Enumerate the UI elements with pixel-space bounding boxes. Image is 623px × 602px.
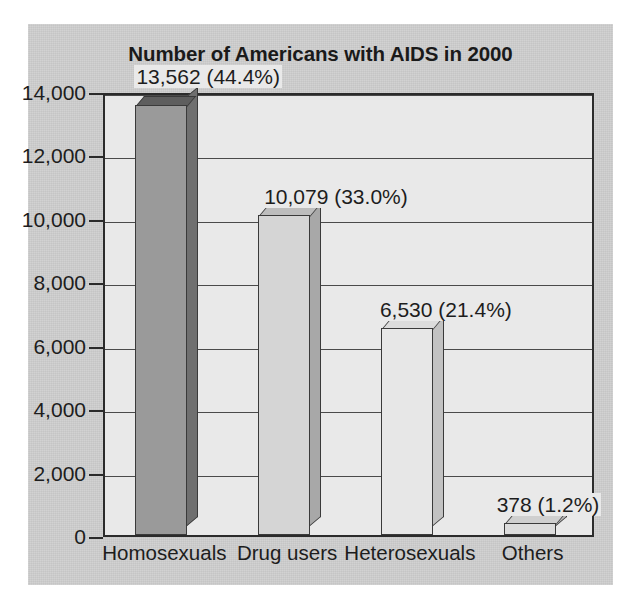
plot-area: 13,562 (44.4%)10,079 (33.0%)6,530 (21.4%… <box>103 93 594 537</box>
y-axis-tick <box>89 537 103 539</box>
y-axis-tick-label: 4,000 <box>33 398 86 422</box>
x-axis-category-labels: HomosexualsDrug usersHeterosexualsOthers <box>103 541 594 575</box>
x-axis-category-label: Heterosexuals <box>344 541 475 565</box>
bar <box>258 215 310 535</box>
bar-side-face <box>187 87 198 526</box>
x-axis-category-label: Homosexuals <box>102 541 226 565</box>
y-axis-tick <box>89 220 103 222</box>
y-axis-tick <box>89 474 103 476</box>
y-axis-tick <box>89 283 103 285</box>
bar-value-label: 10,079 (33.0%) <box>262 185 410 209</box>
y-axis-tick-label: 6,000 <box>33 335 86 359</box>
y-axis-tick-label: 12,000 <box>22 144 86 168</box>
y-axis-tick <box>89 410 103 412</box>
x-axis-category-label: Drug users <box>237 541 337 565</box>
bar-side-face <box>310 197 321 526</box>
bar-front-face <box>135 105 187 535</box>
bar <box>381 328 433 535</box>
bar-value-label: 13,562 (44.4%) <box>134 65 282 89</box>
y-axis-tick <box>89 347 103 349</box>
bar <box>135 105 187 535</box>
y-axis-tick-label: 0 <box>74 525 86 549</box>
bar-value-label: 6,530 (21.4%) <box>378 298 514 322</box>
bar-value-label: 378 (1.2%) <box>495 493 602 517</box>
y-axis-ticks <box>89 24 103 585</box>
y-axis-labels: 02,0004,0006,0008,00010,00012,00014,000 <box>28 24 86 585</box>
bar-front-face <box>381 328 433 535</box>
x-axis-category-label: Others <box>502 541 564 565</box>
bar-front-face <box>504 523 556 535</box>
bar-side-face <box>433 310 444 526</box>
y-axis-tick-label: 2,000 <box>33 462 86 486</box>
chart-title: Number of Americans with AIDS in 2000 <box>28 42 613 66</box>
y-axis-tick <box>89 156 103 158</box>
y-axis-tick-label: 8,000 <box>33 271 86 295</box>
y-axis-tick-label: 14,000 <box>22 81 86 105</box>
y-axis-tick <box>89 93 103 95</box>
chart-figure: Number of Americans with AIDS in 2000 02… <box>28 24 613 585</box>
y-axis-tick-label: 10,000 <box>22 208 86 232</box>
bar-front-face <box>258 215 310 535</box>
bar <box>504 523 556 535</box>
